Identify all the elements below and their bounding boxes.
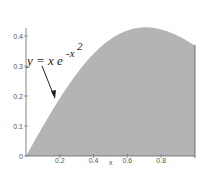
svg-text:0.2: 0.2 bbox=[13, 93, 23, 100]
chart: 00.10.20.30.4 0.20.40.60.8 x y = x e -x … bbox=[0, 0, 209, 170]
svg-text:0.6: 0.6 bbox=[123, 157, 133, 164]
svg-text:0.8: 0.8 bbox=[156, 157, 166, 164]
svg-text:-x: -x bbox=[66, 47, 75, 59]
svg-text:y = x e: y = x e bbox=[25, 53, 63, 68]
svg-text:0.4: 0.4 bbox=[89, 157, 99, 164]
svg-text:0: 0 bbox=[19, 153, 23, 160]
svg-text:0.4: 0.4 bbox=[13, 33, 23, 40]
svg-text:0.1: 0.1 bbox=[13, 123, 23, 130]
x-axis-label: x bbox=[109, 159, 113, 166]
arrow-icon bbox=[42, 66, 56, 99]
svg-text:0.2: 0.2 bbox=[55, 157, 65, 164]
svg-text:0.3: 0.3 bbox=[13, 63, 23, 70]
svg-text:2: 2 bbox=[77, 40, 83, 52]
equation-label: y = x e -x 2 bbox=[25, 40, 83, 68]
